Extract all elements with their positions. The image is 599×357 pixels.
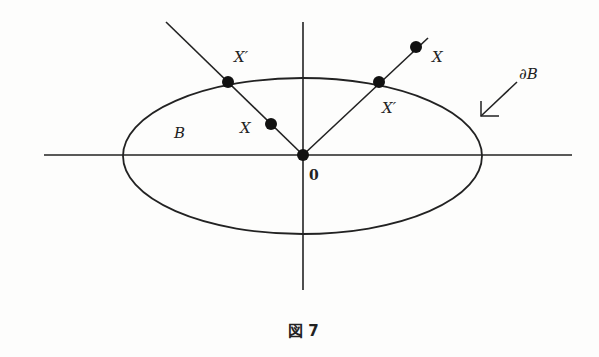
right-outer-point xyxy=(410,41,422,53)
label-origin: 0 xyxy=(309,167,319,183)
left-ray xyxy=(166,22,303,155)
figure-7-diagram: X′ X X′ X B ∂B 0 図 7 xyxy=(0,0,599,357)
left-boundary-point xyxy=(222,76,234,88)
label-left-boundary-point: X′ xyxy=(233,48,249,66)
label-left-inner-point: X xyxy=(239,119,252,137)
figure-caption: 図 7 xyxy=(288,322,319,340)
boundary-arrow-icon xyxy=(481,82,517,116)
left-inner-point xyxy=(265,118,277,130)
right-ray xyxy=(303,38,428,155)
right-boundary-point xyxy=(373,76,385,88)
origin-point xyxy=(297,149,309,161)
label-right-outer-point: X xyxy=(431,48,444,66)
label-region-b: B xyxy=(173,124,185,142)
label-right-boundary-point: X′ xyxy=(381,99,397,117)
label-boundary: ∂B xyxy=(519,65,538,83)
